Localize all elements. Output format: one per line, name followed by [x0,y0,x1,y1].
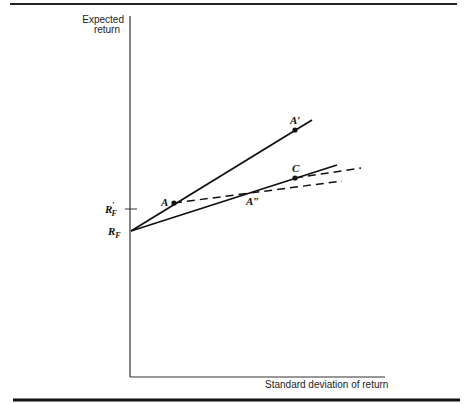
rf-label: RF [107,225,121,240]
point-a-prime [292,127,297,132]
rf-prime-label: R′F [104,201,118,218]
label-c: C [292,162,300,174]
y-axis-label-line2: return [94,24,120,35]
point-a [171,200,176,205]
label-a-prime: A′ [289,114,300,126]
x-axis-label: Standard deviation of return [265,379,388,390]
figure: Expected return Standard deviation of re… [0,0,471,404]
point-c [292,175,297,180]
label-a-double-prime: A″ [245,195,259,207]
line-rf-a-aprime [131,120,312,231]
dashed-from-c [295,168,361,178]
label-a: A [160,196,168,208]
